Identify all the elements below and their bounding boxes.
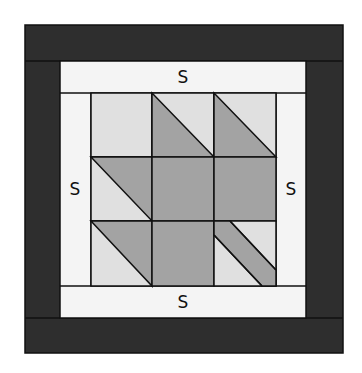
label-right-sashing: S — [286, 181, 297, 198]
label-top-sashing: S — [178, 69, 189, 86]
maple-leaf-block — [91, 93, 276, 286]
label-left-sashing: S — [70, 181, 81, 198]
quilt-block-diagram — [0, 0, 362, 373]
label-bottom-sashing: S — [178, 294, 189, 311]
